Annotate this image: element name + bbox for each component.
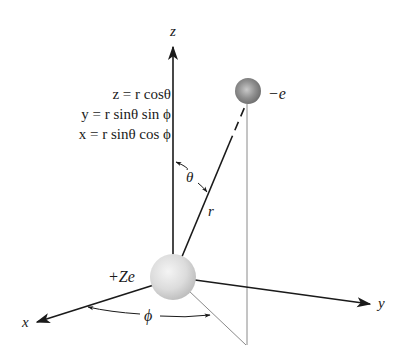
radius-vector	[181, 144, 229, 259]
electron-sphere	[235, 78, 261, 104]
theta-angle-arc-end	[198, 183, 207, 192]
radius-vector-dashed	[229, 104, 246, 144]
conversion-equations: z = r cosθ y = r sinθ sin ϕ x = r sinθ c…	[36, 84, 171, 144]
nucleus-sphere	[150, 254, 196, 300]
x-axis-label: x	[21, 314, 29, 330]
y-axis-label: y	[376, 295, 385, 311]
nucleus-charge-label: +Ze	[108, 268, 135, 285]
y-axis	[195, 280, 370, 304]
xy-plane-projection-line	[188, 290, 246, 345]
x-axis	[37, 284, 157, 322]
spherical-coordinates-diagram: z y x −e +Ze r θ ϕ	[0, 0, 407, 363]
phi-label: ϕ	[144, 307, 152, 325]
radius-label: r	[208, 203, 214, 219]
z-axis-label: z	[169, 23, 176, 39]
theta-label: θ	[186, 169, 194, 185]
electron-charge-label: −e	[268, 85, 286, 102]
equation-x: x = r sinθ cos ϕ	[36, 124, 171, 144]
equation-z: z = r cosθ	[36, 84, 171, 104]
phi-angle-arc-right	[160, 315, 210, 317]
equation-y: y = r sinθ sin ϕ	[36, 104, 171, 124]
phi-angle-arc-left	[88, 307, 140, 314]
